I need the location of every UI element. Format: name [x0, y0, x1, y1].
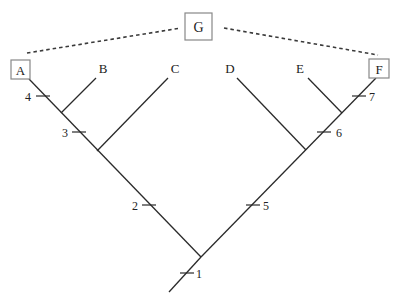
outgroup-box-g: G: [185, 13, 212, 40]
branch-b: [61, 78, 96, 113]
dashed-link-g-f: [224, 28, 378, 55]
taxon-box-f: F: [369, 59, 389, 78]
taxon-box-a: A: [11, 60, 30, 79]
tick-label-6: 6: [336, 126, 342, 140]
branch-e: [308, 78, 342, 113]
dashed-link-g-a: [27, 28, 181, 53]
branch-right-main: [201, 78, 376, 257]
taxon-label-d: D: [225, 61, 234, 76]
taxon-label-c: C: [171, 61, 180, 76]
tick-label-7: 7: [369, 90, 375, 104]
outgroup-label: G: [193, 20, 203, 35]
cladogram: G A B C D E F 1 2 3 4 5 6 7: [0, 0, 397, 303]
branch-left-main: [29, 79, 201, 257]
tick-label-4: 4: [25, 90, 31, 104]
tick-label-2: 2: [132, 199, 138, 213]
taxon-label-e: E: [296, 61, 304, 76]
taxon-label-f: F: [375, 62, 382, 77]
branch-d: [237, 78, 306, 150]
tick-label-5: 5: [263, 199, 269, 213]
tick-label-3: 3: [62, 126, 68, 140]
branch-c: [97, 78, 168, 151]
tick-label-1: 1: [196, 267, 202, 281]
taxon-label-a: A: [16, 63, 26, 78]
taxon-label-b: B: [99, 61, 108, 76]
